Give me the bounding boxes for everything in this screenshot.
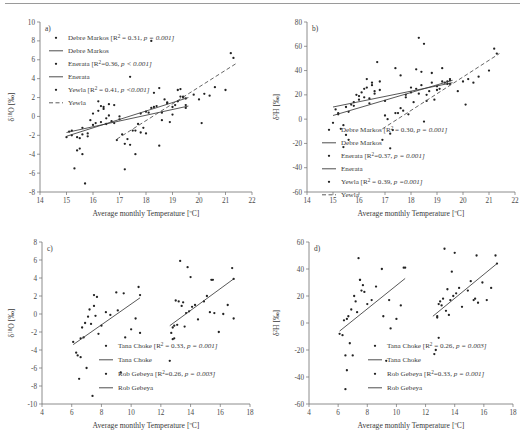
svg-text:4: 4 [307,409,311,417]
panel-c-plot: 4681012141618-10-8-6-4-202468Average mon… [0,228,263,448]
svg-text:Yewla: Yewla [341,191,360,199]
svg-text:Tana Choke: Tana Choke [118,356,152,364]
svg-text:-10: -10 [27,401,37,409]
svg-text:18: 18 [246,409,254,417]
svg-text:-6: -6 [29,170,35,178]
svg-text:Average monthly Temperature [º: Average monthly Temperature [ºC] [93,209,200,218]
svg-text:16: 16 [480,409,488,417]
svg-text:17: 17 [116,197,124,205]
svg-text:60: 60 [297,239,305,247]
svg-text:Yewla: Yewla [68,99,87,107]
svg-text:Debre Markos: Debre Markos [68,47,109,55]
svg-text:Debre Markos: Debre Markos [341,139,382,147]
svg-text:4: 4 [40,409,44,417]
svg-text:Yewla [R2 = 0.41, p <0.001]: Yewla [R2 = 0.41, p <0.001] [68,85,150,94]
svg-text:22: 22 [248,197,256,205]
svg-text:12: 12 [157,409,165,417]
svg-text:8: 8 [100,409,104,417]
svg-text:-40: -40 [292,164,302,172]
svg-text:-60: -60 [294,401,304,409]
svg-text:2: 2 [33,293,37,301]
svg-text:40: 40 [295,67,303,75]
svg-text:10: 10 [393,409,401,417]
svg-text:21: 21 [485,197,493,205]
svg-text:6: 6 [33,257,37,265]
svg-text:18: 18 [407,197,415,205]
svg-text:0: 0 [31,113,35,121]
svg-text:Rob Gebeya: Rob Gebeya [118,384,154,392]
svg-text:8: 8 [365,409,369,417]
svg-text:Debre Markos [R2 = 0.30, p = 0: Debre Markos [R2 = 0.30, p = 0.001] [341,125,448,134]
svg-text:-20: -20 [294,347,304,355]
svg-text:-20: -20 [292,140,302,148]
svg-text:-8: -8 [31,383,37,391]
panel-c: 4681012141618-10-8-6-4-202468Average mon… [0,228,263,448]
svg-text:14: 14 [36,197,44,205]
svg-text:20: 20 [297,293,305,301]
panel-d-plot: 4681012141618-60-40-200204060Average mon… [263,228,525,448]
svg-text:16: 16 [89,197,97,205]
svg-text:8: 8 [33,239,37,247]
svg-text:Enerata [R2=0.37, p = 0.001]: Enerata [R2=0.37, p = 0.001] [341,151,425,160]
svg-text:21: 21 [222,197,230,205]
svg-text:10: 10 [128,409,136,417]
svg-text:18: 18 [142,197,150,205]
svg-text:15: 15 [63,197,71,205]
svg-text:0: 0 [33,311,37,319]
svg-text:20: 20 [295,91,303,99]
svg-text:Tana Choke [R2 = 0.26, p = 0.0: Tana Choke [R2 = 0.26, p = 0.003] [387,341,487,350]
svg-text:-4: -4 [29,151,35,159]
svg-text:Average monthly Temperature [º: Average monthly Temperature [ºC] [93,421,200,430]
panel-b-plot: 141516171819202122-60-40-20020406080Aver… [263,8,525,230]
figure-four-panel-scatter: 141516171819202122-8-6-4-20246810Average… [0,0,525,448]
svg-text:Debre Markos [R2 = 0.31, p = 0: Debre Markos [R2 = 0.31, p = 0.001] [68,33,175,42]
svg-text:8: 8 [31,37,35,45]
svg-text:Tana Choke [R2 = 0.33, p = 0.0: Tana Choke [R2 = 0.33, p = 0.001] [118,341,218,350]
svg-text:0: 0 [298,116,302,124]
svg-text:20: 20 [459,197,467,205]
panel-d: 4681012141618-60-40-200204060Average mon… [263,228,525,448]
svg-text:Rob Gebeya [R2=0.26, p = 0.003: Rob Gebeya [R2=0.26, p = 0.003] [118,369,216,378]
svg-text:-2: -2 [29,132,35,140]
svg-text:-40: -40 [294,374,304,382]
svg-text:Enerata [R2=0.36, p < 0.001]: Enerata [R2=0.36, p < 0.001] [68,59,152,68]
svg-text:δ2H [‰]: δ2H [‰] [272,310,281,336]
svg-text:d): d) [314,244,321,253]
panel-a: 141516171819202122-8-6-4-20246810Average… [0,8,263,230]
svg-text:22: 22 [511,197,519,205]
svg-text:δ18O [‰]: δ18O [‰] [7,309,16,338]
svg-text:Yewla [R2 = 0.39, p =0.001]: Yewla [R2 = 0.39, p =0.001] [341,177,423,186]
svg-text:40: 40 [297,266,305,274]
svg-text:-60: -60 [292,189,302,197]
svg-text:Enerata: Enerata [68,73,91,81]
svg-text:Rob Gebeya: Rob Gebeya [387,384,423,392]
svg-text:-6: -6 [31,365,37,373]
svg-text:14: 14 [187,409,195,417]
svg-text:Tana Choke: Tana Choke [387,356,421,364]
svg-text:10: 10 [28,19,36,27]
svg-text:a): a) [45,24,51,33]
svg-text:16: 16 [217,409,225,417]
svg-text:-8: -8 [29,189,35,197]
svg-text:Rob Gebeya [R2=0.33, p = 0.001: Rob Gebeya [R2=0.33, p = 0.001] [387,369,485,378]
svg-text:18: 18 [509,409,517,417]
svg-text:4: 4 [33,275,37,283]
svg-text:12: 12 [422,409,430,417]
svg-text:19: 19 [169,197,177,205]
svg-text:-4: -4 [31,347,37,355]
svg-text:60: 60 [295,43,303,51]
svg-text:15: 15 [329,197,337,205]
svg-text:6: 6 [336,409,340,417]
svg-text:20: 20 [195,197,203,205]
svg-text:6: 6 [31,56,35,64]
svg-text:Enerata: Enerata [341,165,364,173]
svg-text:δ18O [‰]: δ18O [‰] [7,93,16,122]
svg-text:c): c) [47,244,53,253]
panel-a-plot: 141516171819202122-8-6-4-20246810Average… [0,8,263,230]
svg-text:Average monthly Temperature [º: Average monthly Temperature [ºC] [358,421,465,430]
svg-text:17: 17 [381,197,389,205]
svg-text:b): b) [312,24,319,33]
svg-text:4: 4 [31,75,35,83]
svg-text:2: 2 [31,94,35,102]
svg-text:-2: -2 [31,329,37,337]
